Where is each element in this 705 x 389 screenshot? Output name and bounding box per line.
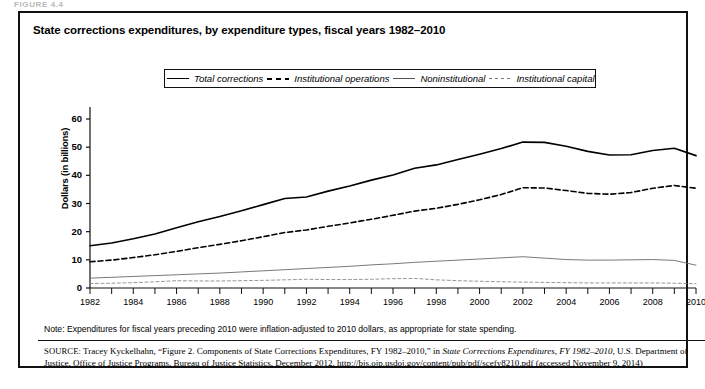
- legend-line-dashed-thin-icon: [489, 75, 511, 82]
- series-line: [90, 185, 696, 261]
- figure-container: State corrections expenditures, by expen…: [18, 11, 688, 368]
- source-text-part1: Tracey Kyckelhahn, “Figure 2. Components…: [81, 346, 442, 356]
- x-axis-tick-label: 2010: [686, 297, 705, 307]
- x-axis-tick-label: 1982: [80, 297, 100, 307]
- legend-label: Institutional operations: [294, 73, 389, 84]
- x-axis-tick-label: 1984: [123, 297, 143, 307]
- line-chart-svg: [38, 101, 705, 316]
- y-axis-tick-label: 20: [56, 226, 82, 237]
- x-axis-tick-label: 1988: [210, 297, 230, 307]
- chart-note: Note: Expenditures for fiscal years prec…: [44, 324, 704, 335]
- y-axis-tick-label: 50: [56, 141, 82, 152]
- legend-label: Noninstitutional: [420, 73, 485, 84]
- x-axis-tick-label: 2008: [643, 297, 663, 307]
- y-axis-tick-label: 30: [56, 198, 82, 209]
- chart-legend: Total corrections Institutional operatio…: [164, 69, 596, 88]
- x-axis-tick-label: 2002: [513, 297, 533, 307]
- x-axis-tick-label: 1998: [426, 297, 446, 307]
- legend-line-solid-thick-icon: [167, 75, 189, 82]
- section-divider: [38, 340, 705, 341]
- figure-title: State corrections expenditures, by expen…: [33, 24, 445, 36]
- y-axis-tick-label: 0: [56, 282, 82, 293]
- legend-item-institutional-operations: Institutional operations: [265, 73, 391, 84]
- chart-source: SOURCE: Tracey Kyckelhahn, “Figure 2. Co…: [44, 346, 705, 369]
- x-axis-tick-label: 1992: [296, 297, 316, 307]
- chart-plot-area: Dollars (in billions) 0102030405060 1982…: [38, 101, 705, 316]
- x-axis-tick-label: 1986: [167, 297, 187, 307]
- y-axis-tick-label: 10: [56, 254, 82, 265]
- y-axis-tick-labels: 0102030405060: [56, 101, 82, 316]
- legend-item-institutional-capital: Institutional capital: [487, 73, 596, 84]
- legend-label: Total corrections: [194, 73, 263, 84]
- source-prefix: SOURCE:: [44, 346, 81, 356]
- legend-line-solid-thin-icon: [393, 75, 415, 82]
- x-axis-tick-label: 2000: [470, 297, 490, 307]
- figure-number-tag: FIGURE 4.4: [14, 0, 64, 9]
- x-axis-tick-label: 2006: [599, 297, 619, 307]
- legend-label: Institutional capital: [516, 73, 594, 84]
- x-axis-tick-label: 2004: [556, 297, 576, 307]
- x-axis-tick-label: 1996: [383, 297, 403, 307]
- y-axis-tick-label: 60: [56, 113, 82, 124]
- series-line: [90, 278, 696, 283]
- legend-line-dashed-thick-icon: [267, 75, 289, 82]
- series-line: [90, 257, 696, 278]
- legend-item-total-corrections: Total corrections: [165, 73, 265, 84]
- x-axis-tick-label: 1994: [340, 297, 360, 307]
- source-publication-title: State Corrections Expenditures, FY 1982–…: [442, 346, 612, 356]
- legend-item-noninstitutional: Noninstitutional: [391, 73, 487, 84]
- y-axis-tick-label: 40: [56, 169, 82, 180]
- x-axis-tick-label: 1990: [253, 297, 273, 307]
